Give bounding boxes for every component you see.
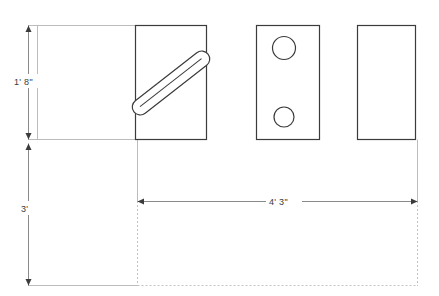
floor-footprint [138,201,418,286]
arrow-left [138,199,145,205]
arrow-bottom [26,279,32,286]
horizontal-dimension-group: 4' 3" [138,194,418,208]
panel-blank-left [38,26,136,140]
panel-blank-right-outline [358,26,416,140]
panel-with-two-holes [257,26,320,140]
arrow-top [26,26,32,33]
vertical-lower-dimension-label: 3' [21,204,28,214]
arrow-right [411,199,418,205]
hole-upper-icon [273,37,296,60]
arrow-lower-top [26,144,32,151]
hole-lower-icon [274,107,294,127]
panel-with-diagonal-handle [129,26,213,140]
panel-blank-right [358,26,416,140]
vertical-upper-dimension-label: 1' 8" [14,77,33,87]
panel-blank-left-outline [38,26,136,140]
drawing-svg: 1' 8" 3' 4' 3" [0,0,439,296]
horizontal-dimension-label: 4' 3" [269,197,288,207]
technical-drawing-canvas: 1' 8" 3' 4' 3" [0,0,439,296]
arrow-upper-bottom [26,133,32,140]
